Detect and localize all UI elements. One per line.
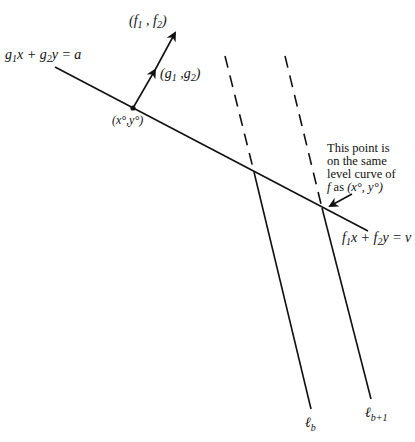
annotation-arrow: [330, 194, 352, 206]
annotation-line-1: This point is: [327, 141, 390, 155]
level-line-b1-label: ℓb+1: [365, 405, 388, 423]
level-line-b-label: ℓb: [305, 415, 316, 433]
annotation-line-3: level curve of: [327, 167, 397, 181]
level-line-b: [254, 172, 311, 409]
diagram-canvas: g1x + g2y = a (f1 , f2) (g1 ,g2) (x°,y°)…: [0, 0, 415, 442]
gradient-g-label: (g1 ,g2): [160, 66, 201, 83]
tangent-point: [130, 105, 135, 110]
annotation-line-2: on the same: [327, 154, 387, 168]
budget-line: [55, 67, 368, 231]
gradient-g-arrow: [133, 70, 155, 108]
gradient-f-label: (f1 , f2): [129, 13, 167, 30]
iso-line-label: f1x + f2y = v: [342, 230, 412, 247]
annotation-line-4: f as (x°, y°): [327, 180, 383, 194]
gradient-f-arrow: [155, 33, 175, 70]
budget-line-label: g1x + g2y = a: [5, 47, 81, 64]
tangent-point-label: (x°,y°): [112, 113, 143, 127]
level-line-b1-dashed: [285, 56, 322, 208]
level-line-b-dashed: [225, 56, 254, 172]
